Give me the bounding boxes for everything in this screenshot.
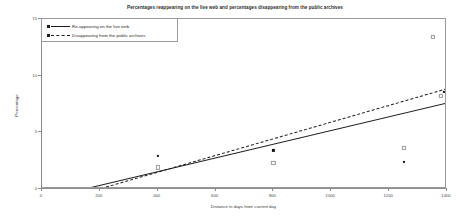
chart-title: Percentages reappearing on the live web … xyxy=(0,4,470,11)
x-tick xyxy=(99,188,100,191)
x-tick-label: 200 xyxy=(95,193,102,198)
y-tick xyxy=(38,131,41,132)
data-point xyxy=(443,90,445,92)
x-tick xyxy=(330,188,331,191)
y-axis-label: Percentage xyxy=(14,76,19,136)
legend-item-disappearing: Disappearing from the public archives xyxy=(46,31,177,40)
x-tick xyxy=(446,188,447,191)
y-tick xyxy=(38,75,41,76)
legend-swatch-solid-square-icon xyxy=(46,22,72,31)
legend-item-reappearing: Re-appearing on the live web xyxy=(46,22,177,31)
y-tick-label: 5 xyxy=(28,129,37,134)
x-tick-label: 1200 xyxy=(383,193,392,198)
x-axis-line xyxy=(41,188,446,189)
data-point xyxy=(271,161,275,165)
data-point xyxy=(272,149,274,151)
chart-root: Percentages reappearing on the live web … xyxy=(0,0,470,219)
legend-label-disappearing: Disappearing from the public archives xyxy=(72,33,145,38)
x-tick xyxy=(157,188,158,191)
legend-label-reappearing: Re-appearing on the live web xyxy=(72,24,129,29)
data-point xyxy=(439,94,443,98)
data-point xyxy=(157,155,159,157)
legend-swatch-dashed-square-icon xyxy=(46,31,72,40)
x-tick-label: 800 xyxy=(269,193,276,198)
data-point xyxy=(402,146,406,150)
x-tick-label: 400 xyxy=(153,193,160,198)
data-point xyxy=(430,35,434,39)
x-tick xyxy=(388,188,389,191)
trend-line xyxy=(101,88,446,188)
x-tick xyxy=(41,188,42,191)
y-tick-label: 10 xyxy=(28,72,37,77)
y-tick-label: 15 xyxy=(28,16,37,21)
x-tick-label: 1400 xyxy=(441,193,450,198)
data-point xyxy=(156,165,160,169)
x-tick xyxy=(272,188,273,191)
plot-area xyxy=(41,18,446,188)
x-tick-label: 600 xyxy=(211,193,218,198)
x-tick-label: 1000 xyxy=(326,193,335,198)
x-axis-label: Distance in days from current day xyxy=(41,204,446,209)
y-tick xyxy=(38,188,41,189)
legend: Re-appearing on the live web Disappearin… xyxy=(41,18,178,42)
x-tick xyxy=(215,188,216,191)
x-tick-label: 0 xyxy=(40,193,42,198)
y-tick-label: 0 xyxy=(28,186,37,191)
data-point xyxy=(403,161,405,163)
y-axis-line xyxy=(41,18,42,188)
